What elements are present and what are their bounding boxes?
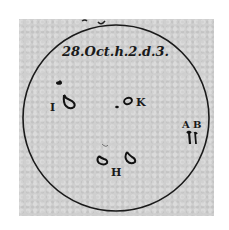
date-inscription: 28.Oct.h.2.d.3.: [61, 44, 169, 59]
faint-mark: [102, 144, 108, 146]
sunspot-a: [187, 132, 191, 144]
sunspot-b: [194, 132, 197, 144]
spot-label-b: B: [193, 119, 201, 130]
sunspot-group-i: [64, 95, 75, 108]
spot-label-a: A: [181, 119, 190, 130]
spot-label-i: I: [50, 101, 55, 114]
top-mark: [82, 20, 87, 21]
sun-disk-drawing: 28.Oct.h.2.d.3. I K A B H: [0, 0, 229, 230]
spot-label-h: H: [111, 166, 121, 179]
spot-label-k: K: [136, 96, 146, 109]
sunspot-h-right: [126, 152, 136, 163]
top-mark-2: [98, 21, 105, 24]
sunspot-dot-k: [115, 106, 119, 108]
sunspot-dot: [56, 81, 62, 85]
sunspot-h-left: [98, 156, 108, 165]
sunspot-k: [123, 97, 133, 105]
